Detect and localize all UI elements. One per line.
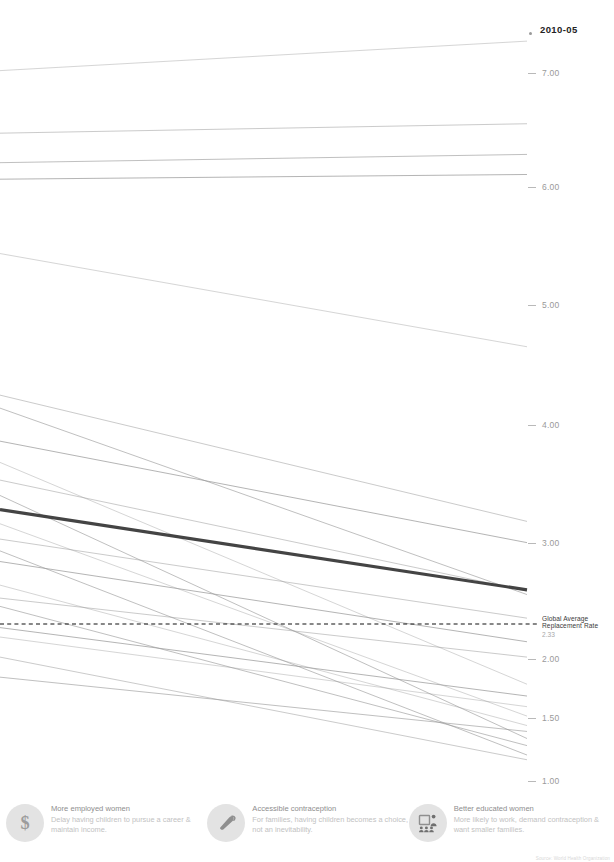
series-line [0, 628, 527, 696]
legend-item-education: Better educated women More likely to wor… [409, 803, 610, 842]
series-line [0, 510, 527, 590]
series-line [0, 124, 527, 133]
series-lines [0, 41, 527, 760]
condom-icon [207, 804, 245, 842]
legend-text-contraception: Accessible contraception For families, h… [252, 803, 408, 836]
classroom-icon [409, 804, 447, 842]
chart-lines-svg [0, 0, 614, 795]
replacement-rate-label-line2: Replacement Rate [542, 622, 614, 629]
series-line [0, 408, 527, 594]
svg-text:$: $ [20, 813, 29, 833]
series-line [0, 524, 527, 716]
replacement-rate-annotation: Global Average Replacement Rate 2.33 [542, 615, 614, 638]
driver-legend: $ More employed women Delay having child… [0, 795, 614, 862]
legend-item-contraception: Accessible contraception For families, h… [207, 803, 408, 842]
fertility-line-chart: 2010-05 7.006.005.004.003.002.001.501.00… [0, 0, 614, 795]
legend-desc-education: More likely to work, demand contraceptio… [454, 815, 610, 836]
series-line [0, 480, 527, 591]
series-line [0, 154, 527, 162]
legend-desc-contraception: For families, having children becomes a … [252, 815, 408, 836]
legend-title-contraception: Accessible contraception [252, 804, 408, 815]
replacement-rate-label-line1: Global Average [542, 615, 614, 622]
legend-item-employment: $ More employed women Delay having child… [6, 803, 207, 842]
series-line [0, 174, 527, 179]
series-line [0, 41, 527, 71]
series-line [0, 657, 527, 760]
series-line [0, 441, 527, 542]
legend-title-education: Better educated women [454, 804, 610, 815]
legend-text-employment: More employed women Delay having childre… [51, 803, 207, 836]
dollar-sign-icon: $ [6, 804, 44, 842]
source-credit: Source: World Health Organization [536, 856, 610, 861]
series-line [0, 395, 527, 521]
replacement-rate-value: 2.33 [542, 631, 614, 638]
series-line [0, 637, 527, 707]
legend-title-employment: More employed women [51, 804, 207, 815]
legend-desc-employment: Delay having children to pursue a career… [51, 815, 207, 836]
legend-text-education: Better educated women More likely to wor… [454, 803, 610, 836]
series-line [0, 254, 527, 347]
series-line [0, 495, 527, 738]
